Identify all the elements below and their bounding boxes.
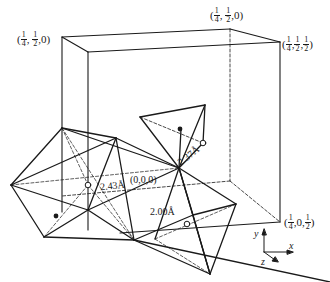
axis-label-x: x (289, 240, 293, 251)
corner-label-top-left: (14, 12,0) (17, 31, 50, 48)
crystal-structure-figure: (14, 12,0) (14, 12,0) (14,12,12) (14,0,1… (0, 0, 330, 282)
unit-cell-box (62, 29, 280, 233)
open-atom-lower (184, 221, 190, 227)
open-atom-left (85, 182, 91, 188)
open-atom-upper (200, 140, 206, 146)
distance-label-2-00: 2.00Å (150, 206, 175, 217)
corner-label-bottom-right: (14,0,12) (284, 214, 314, 231)
corner-label-top-right: (14,12,12) (282, 36, 313, 53)
filled-atom-lower (54, 214, 59, 219)
axis-label-y: y (254, 228, 258, 239)
corner-label-top-back: (14, 12,0) (210, 7, 243, 24)
right-octahedron-hidden (155, 168, 236, 274)
origin-label: (0,0,0) (130, 174, 157, 185)
filled-atom-upper (178, 127, 183, 132)
axis-label-z: z (261, 256, 265, 267)
